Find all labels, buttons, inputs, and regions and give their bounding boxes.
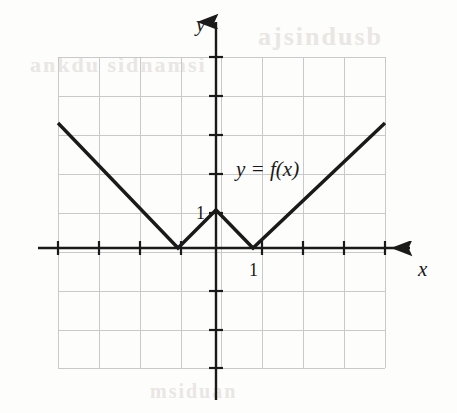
axes <box>38 22 410 400</box>
x-tick-label-1: 1 <box>249 260 258 280</box>
y-axis-label: y <box>194 12 206 36</box>
x-axis-label: x <box>417 257 428 281</box>
figure-canvas: ajsindusb ankdu sidnamsi msiduan <box>0 0 457 413</box>
curve-label: y = f(x) <box>234 157 299 181</box>
graph-svg: y x y = f(x) 1 1 <box>0 0 457 413</box>
y-tick-label-1: 1 <box>196 203 205 223</box>
